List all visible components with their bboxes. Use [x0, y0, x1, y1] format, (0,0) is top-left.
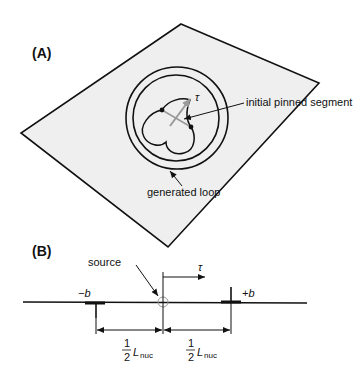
svg-text:L: L [133, 346, 139, 358]
neg-b-label: −b [78, 287, 91, 299]
svg-text:2: 2 [188, 351, 194, 363]
source-label: source [88, 256, 121, 268]
half-lnuc-label-left: 1 2 L nuc [122, 337, 153, 363]
svg-text:nuc: nuc [204, 351, 217, 360]
pinning-point-2 [189, 125, 194, 130]
panel-a-label: (A) [32, 45, 51, 61]
panel-a: (A) τ initial pinned segment generated l… [21, 24, 352, 247]
svg-text:nuc: nuc [140, 351, 153, 360]
tau-symbol-b: τ [198, 261, 203, 273]
half-lnuc-label-right: 1 2 L nuc [186, 337, 217, 363]
svg-text:1: 1 [124, 337, 130, 349]
source-pointer [136, 265, 158, 296]
dislocation-line [23, 302, 307, 303]
figure: (A) τ initial pinned segment generated l… [0, 0, 362, 378]
pos-b-label: +b [242, 287, 255, 299]
slip-plane [21, 24, 319, 247]
svg-text:2: 2 [124, 351, 130, 363]
pinning-point-1 [160, 108, 165, 113]
pinned-segment-label: initial pinned segment [246, 96, 352, 108]
svg-text:1: 1 [188, 337, 194, 349]
panel-b: (B) −b +b source τ 1 2 L nuc [23, 243, 307, 363]
panel-b-label: (B) [32, 243, 51, 259]
generated-loop-label: generated loop [147, 186, 220, 198]
svg-text:L: L [197, 346, 203, 358]
